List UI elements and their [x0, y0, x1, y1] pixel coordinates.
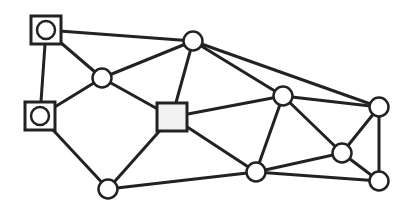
node-A	[31, 16, 61, 44]
circle-node-icon	[99, 180, 118, 199]
node-F	[99, 180, 118, 199]
circle-node-icon	[37, 21, 55, 39]
square-node-icon	[157, 103, 187, 131]
node-D	[184, 32, 203, 51]
edge-G-H	[256, 96, 283, 172]
node-K	[370, 172, 389, 191]
edge-C-D	[102, 41, 193, 78]
node-H	[247, 163, 266, 182]
node-J	[370, 98, 389, 117]
node-B	[25, 102, 55, 130]
circle-node-icon	[370, 98, 389, 117]
node-E	[157, 103, 187, 131]
edge-A-D	[46, 30, 193, 41]
edge-E-G	[172, 96, 283, 117]
circle-node-icon	[31, 107, 49, 125]
graph-edges	[40, 30, 379, 189]
edge-G-I	[283, 96, 342, 153]
edge-H-I	[256, 153, 342, 172]
circle-node-icon	[247, 163, 266, 182]
circle-node-icon	[370, 172, 389, 191]
node-G	[274, 87, 293, 106]
circle-node-icon	[333, 144, 352, 163]
graph-nodes	[25, 16, 389, 199]
circle-node-icon	[93, 69, 112, 88]
edge-F-H	[108, 172, 256, 189]
node-C	[93, 69, 112, 88]
circle-node-icon	[184, 32, 203, 51]
network-graph-diagram	[0, 0, 414, 217]
circle-node-icon	[274, 87, 293, 106]
edge-H-K	[256, 172, 379, 181]
node-I	[333, 144, 352, 163]
